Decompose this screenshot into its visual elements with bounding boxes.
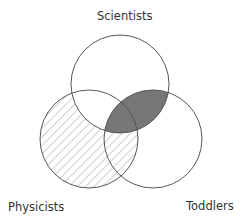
label-scientists: Scientists: [97, 9, 152, 23]
label-toddlers: Toddlers: [186, 199, 234, 213]
label-physicists: Physicists: [8, 200, 64, 214]
venn-diagram: [0, 0, 245, 224]
